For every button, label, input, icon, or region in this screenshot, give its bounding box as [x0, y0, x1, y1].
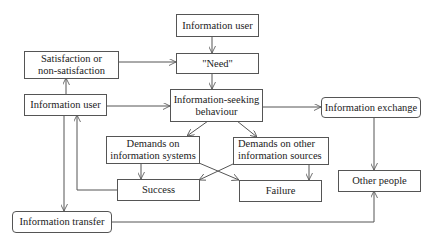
- node-information-transfer: Information transfer: [12, 211, 112, 233]
- node-label: Information user: [30, 99, 100, 111]
- node-label-line2: behaviour: [196, 106, 238, 118]
- node-label: Other people: [352, 175, 407, 187]
- node-demands-information-systems: Demands on information systems: [106, 136, 200, 164]
- node-need: "Need": [176, 53, 259, 74]
- node-label-line1: Demands on other: [238, 138, 315, 150]
- node-label: Information user: [182, 20, 252, 32]
- node-label-line1: Satisfaction or: [41, 53, 102, 65]
- node-information-exchange: Information exchange: [321, 97, 421, 118]
- node-label-line2: information sources: [238, 150, 322, 162]
- node-label: Success: [142, 184, 175, 196]
- node-satisfaction: Satisfaction or non-satisfaction: [24, 51, 119, 79]
- node-other-people: Other people: [338, 170, 421, 192]
- node-label-line2: non-satisfaction: [38, 65, 105, 77]
- node-demands-other-sources: Demands on other information sources: [233, 137, 329, 165]
- node-information-user-top: Information user: [176, 14, 259, 37]
- node-label: Failure: [266, 185, 296, 197]
- node-label: Information exchange: [325, 102, 417, 114]
- node-label-line2: information systems: [110, 150, 195, 162]
- node-label-line1: Demands on: [127, 138, 180, 150]
- node-label-line1: Information-seeking: [174, 94, 260, 106]
- node-success: Success: [117, 179, 200, 201]
- node-failure: Failure: [239, 180, 322, 202]
- node-information-user-left: Information user: [24, 94, 107, 116]
- node-label: Information transfer: [20, 216, 105, 228]
- node-label: "Need": [202, 58, 233, 70]
- node-information-seeking-behaviour: Information-seeking behaviour: [170, 89, 263, 122]
